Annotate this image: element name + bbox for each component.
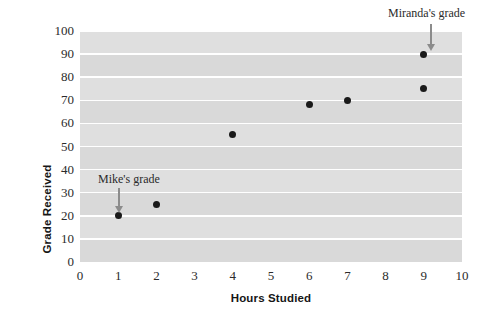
plot-band	[80, 100, 462, 123]
gridline	[80, 238, 462, 240]
x-axis-tick-label: 2	[136, 268, 176, 284]
gridline	[80, 123, 462, 125]
scatter-plot-figure: Grade Received 0102030405060708090100 01…	[0, 0, 497, 327]
y-axis-tick-label: 70	[40, 93, 74, 106]
x-axis-tick-label: 5	[251, 268, 291, 284]
arrow-head	[115, 206, 123, 213]
arrow-shaft	[430, 24, 432, 45]
y-axis-tick-label: 60	[40, 116, 74, 129]
gridline	[80, 100, 462, 102]
plot-band	[80, 216, 462, 239]
data-point	[344, 97, 351, 104]
plot-band	[80, 147, 462, 170]
gridline	[80, 76, 462, 78]
y-axis-tick-label: 10	[40, 232, 74, 245]
x-axis-tick-label: 1	[98, 268, 138, 284]
y-axis-tick-label: 30	[40, 186, 74, 199]
y-axis-tick-label: 0	[40, 255, 74, 268]
plot-area	[80, 31, 462, 262]
y-axis-tick-label: 50	[40, 140, 74, 153]
plot-band	[80, 239, 462, 262]
x-axis-tick-label: 8	[366, 268, 406, 284]
gridline	[80, 146, 462, 148]
gridline	[80, 192, 462, 194]
x-axis-tick-label: 6	[289, 268, 329, 284]
y-axis-tick-label: 100	[40, 24, 74, 37]
gridline	[80, 215, 462, 217]
x-axis-tick-label: 9	[404, 268, 444, 284]
x-axis-tick-label: 4	[213, 268, 253, 284]
data-point	[153, 201, 160, 208]
plot-band	[80, 123, 462, 146]
x-axis-tick-label: 10	[442, 268, 482, 284]
arrow-head	[427, 44, 435, 51]
plot-band	[80, 193, 462, 216]
annotation-miranda-grade-label: Miranda's grade	[388, 6, 465, 21]
y-axis-tick-labels: 0102030405060708090100	[36, 31, 74, 262]
gridline	[80, 169, 462, 171]
plot-band	[80, 54, 462, 77]
y-axis-tick-label: 20	[40, 209, 74, 222]
annotation-mike-grade-label: Mike's grade	[98, 172, 160, 187]
arrow-shaft	[118, 188, 120, 207]
y-axis-tick-label: 40	[40, 163, 74, 176]
x-axis-tick-label: 0	[60, 268, 100, 284]
annotation-miranda-grade-arrow-icon	[426, 24, 435, 52]
x-axis-tick-label: 7	[327, 268, 367, 284]
y-axis-tick-label: 90	[40, 47, 74, 60]
x-axis-tick-labels: 012345678910	[80, 268, 462, 286]
plot-band	[80, 77, 462, 100]
plot-band	[80, 31, 462, 54]
annotation-mike-grade-arrow-icon	[114, 188, 123, 214]
y-axis-tick-label: 80	[40, 70, 74, 83]
gridline	[80, 53, 462, 55]
gridline	[80, 31, 462, 32]
x-axis-title: Hours Studied	[80, 292, 462, 304]
x-axis-tick-label: 3	[175, 268, 215, 284]
